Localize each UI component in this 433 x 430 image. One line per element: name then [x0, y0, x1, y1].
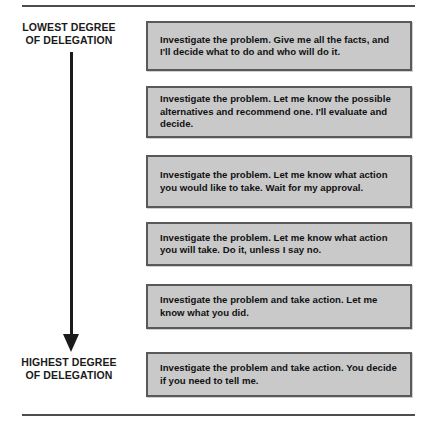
- bottom-divider-rule: [22, 414, 415, 416]
- delegation-level-text: Investigate the problem and take action.…: [148, 294, 410, 319]
- delegation-level-text: Investigate the problem. Let me know wha…: [148, 232, 410, 257]
- delegation-level-text: Investigate the problem and take action.…: [148, 362, 410, 387]
- delegation-level-box: Investigate the problem. Let me know wha…: [146, 222, 412, 266]
- delegation-level-text: Investigate the problem. Give me all the…: [148, 34, 410, 59]
- delegation-level-box: Investigate the problem. Let me know wha…: [146, 155, 412, 208]
- lowest-degree-label-line1: LOWEST DEGREE: [8, 21, 130, 34]
- lowest-degree-label: LOWEST DEGREE OF DELEGATION: [8, 21, 130, 46]
- delegation-level-box: Investigate the problem and take action.…: [146, 284, 412, 329]
- highest-degree-label-line1: HIGHEST DEGREE: [8, 356, 130, 369]
- highest-degree-label-line2: OF DELEGATION: [8, 369, 130, 382]
- delegation-degrees-diagram: LOWEST DEGREE OF DELEGATION HIGHEST DEGR…: [0, 0, 433, 430]
- highest-degree-label: HIGHEST DEGREE OF DELEGATION: [8, 356, 130, 381]
- delegation-level-box: Investigate the problem. Give me all the…: [146, 21, 412, 71]
- delegation-arrow-shaft: [70, 52, 73, 337]
- delegation-level-box: Investigate the problem and take action.…: [146, 352, 412, 397]
- delegation-level-box: Investigate the problem. Let me know the…: [146, 86, 412, 138]
- top-divider-rule: [22, 5, 415, 7]
- down-arrow-icon: [63, 334, 79, 352]
- delegation-level-text: Investigate the problem. Let me know wha…: [148, 169, 410, 194]
- delegation-level-text: Investigate the problem. Let me know the…: [148, 93, 410, 130]
- lowest-degree-label-line2: OF DELEGATION: [8, 34, 130, 47]
